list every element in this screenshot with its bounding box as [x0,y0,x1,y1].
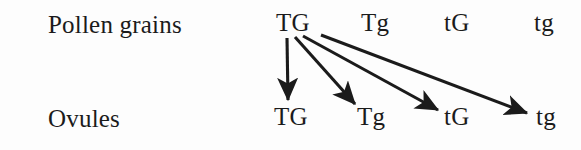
pollen-genotype-tg: tg [534,10,554,35]
ovule-genotype-Tg: Tg [357,104,385,129]
pollen-genotype-TG: TG [276,10,310,35]
pollen-genotype-tG: tG [444,10,470,35]
pollen-genotype-Tg: Tg [361,10,389,35]
ovules-row-label: Ovules [48,106,120,131]
arrow-TG-to-Tg-line [295,37,355,104]
ovule-genotype-TG: TG [274,104,308,129]
arrow-TG-to-tG-line [303,36,438,110]
pollen-ovule-cross-diagram: Pollen grains Ovules TG Tg tG tg TG Tg t… [0,0,581,150]
pollen-grains-row-label: Pollen grains [48,12,182,37]
arrow-TG-to-tg-line [321,35,527,113]
ovule-genotype-tG: tG [444,104,470,129]
ovule-genotype-tg: tg [536,104,556,129]
arrow-TG-to-TG-line [287,38,288,100]
